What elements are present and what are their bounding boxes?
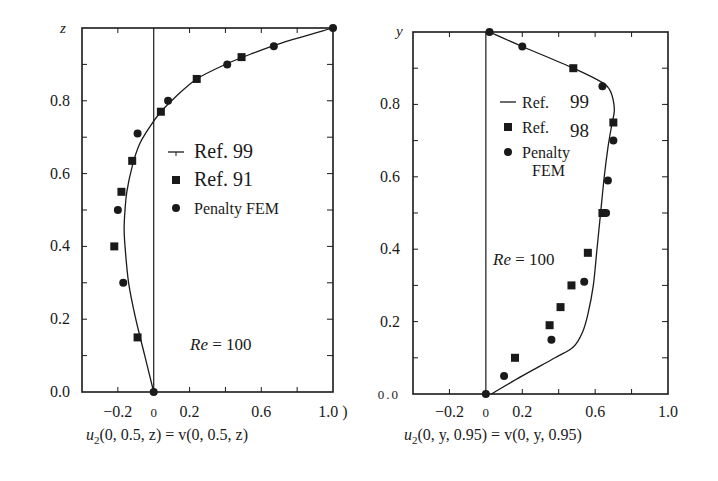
- square-marker: [238, 53, 246, 61]
- square-marker: [584, 249, 592, 257]
- x-tick-label: 1.0: [658, 403, 678, 420]
- legend-label: Ref. 91: [194, 168, 253, 190]
- legend-label: 98: [570, 120, 589, 141]
- square-marker: [557, 303, 565, 311]
- square-marker: [609, 119, 617, 127]
- y-tick-label: 0.8: [380, 95, 400, 112]
- x-axis-label: u2(0, 0.5, z) = v(0, 0.5, z): [86, 426, 248, 446]
- circle-marker: [270, 42, 278, 50]
- y-axis-label: y: [394, 23, 403, 39]
- legend-circle-icon: [504, 148, 512, 156]
- x-tick-label: 0.2: [512, 403, 532, 420]
- y-tick-label: 0.6: [50, 165, 70, 182]
- square-marker: [110, 242, 118, 250]
- x-tick-label: 1.0 ): [318, 403, 347, 421]
- y-tick-label: 0.6: [380, 168, 400, 185]
- y-axis-label: z: [59, 20, 66, 36]
- x-tick-label: −0.2: [103, 403, 132, 420]
- y-tick-label: 0.2: [50, 310, 70, 327]
- legend: Ref. 99Ref. 91Penalty FEM: [168, 140, 279, 218]
- square-marker: [546, 321, 554, 329]
- square-marker: [117, 188, 125, 196]
- square-marker: [567, 281, 575, 289]
- square-marker: [157, 108, 165, 116]
- legend-label: FEM: [532, 162, 565, 179]
- circle-marker: [598, 82, 606, 90]
- x-tick-label: 0.6: [585, 403, 605, 420]
- circle-marker: [164, 97, 172, 105]
- y-tick-label: 0.4: [50, 237, 70, 254]
- circle-marker: [329, 24, 337, 32]
- y-tick-label: 0.4: [380, 240, 400, 257]
- circle-marker: [119, 279, 127, 287]
- circle-marker: [114, 206, 122, 214]
- circle-marker: [150, 388, 158, 396]
- legend-label: Ref. 99: [194, 140, 253, 162]
- x-axis-label: u2(0, y, 0.95) = v(0, y, 0.95): [404, 426, 582, 446]
- circle-marker: [580, 278, 588, 286]
- circle-marker: [609, 137, 617, 145]
- legend-label: Penalty: [522, 144, 570, 162]
- legend-label: Penalty FEM: [194, 200, 279, 218]
- legend-label: 99: [570, 91, 589, 112]
- left-chart: −0.200.20.61.0 )0.00.20.40.60.8zu2(0, 0.…: [50, 20, 348, 446]
- circle-marker: [602, 209, 610, 217]
- x-tick-label: −0.2: [435, 403, 464, 420]
- x-tick-label: 0: [483, 405, 490, 420]
- y-tick-label: 0.0: [50, 383, 70, 400]
- circle-marker: [518, 42, 526, 50]
- legend-square-icon: [504, 123, 512, 131]
- circle-marker: [500, 372, 508, 380]
- square-marker: [128, 157, 136, 165]
- plot-frame: [413, 32, 668, 394]
- square-marker: [511, 354, 519, 362]
- y-tick-label: 0.0: [378, 387, 400, 402]
- x-tick-label: 0.6: [251, 403, 271, 420]
- legend: Ref.99Ref.98PenaltyFEM: [500, 91, 589, 179]
- x-tick-label: 0: [150, 405, 157, 420]
- circle-marker: [486, 28, 494, 36]
- circle-marker: [223, 60, 231, 68]
- legend-square-icon: [172, 176, 180, 184]
- square-marker: [193, 75, 201, 83]
- reynolds-annotation: Re = 100: [189, 335, 252, 354]
- reynolds-annotation: Re = 100: [492, 250, 555, 269]
- circle-marker: [547, 336, 555, 344]
- circle-marker: [604, 176, 612, 184]
- circle-marker: [134, 130, 142, 138]
- legend-label: Ref.: [522, 94, 549, 111]
- figure: −0.200.20.61.0 )0.00.20.40.60.8zu2(0, 0.…: [0, 0, 718, 481]
- circle-marker: [482, 390, 490, 398]
- y-tick-label: 0.2: [380, 313, 400, 330]
- square-marker: [569, 64, 577, 72]
- right-chart: −0.200.20.61.00.00.20.40.60.8yu2(0, y, 0…: [378, 23, 678, 446]
- y-tick-label: 0.8: [50, 92, 70, 109]
- x-tick-label: 0.2: [180, 403, 200, 420]
- legend-circle-icon: [172, 204, 180, 212]
- legend-label: Ref.: [522, 119, 549, 136]
- square-marker: [134, 333, 142, 341]
